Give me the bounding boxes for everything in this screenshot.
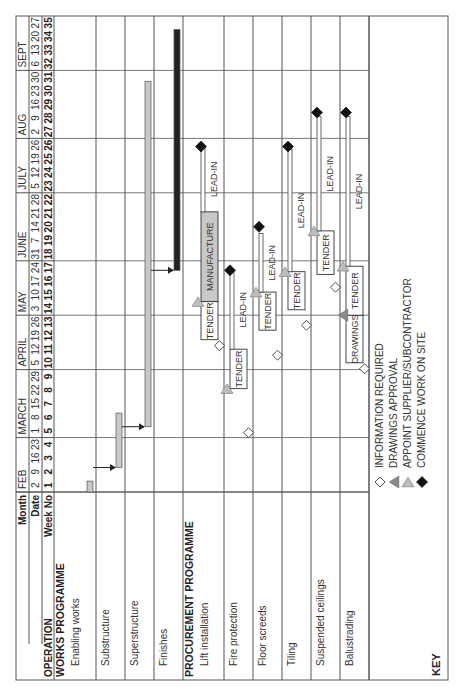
phase-label: LEAD-IN — [238, 292, 248, 328]
month-label-feb: FEB — [17, 469, 28, 489]
phase-label: TENDER — [234, 350, 244, 388]
month-label-march: MARCH — [17, 398, 28, 435]
lead-in-bar — [317, 117, 321, 231]
phase-label: TENDER — [205, 302, 215, 340]
week-tick: 6 — [43, 414, 54, 420]
row-label: Floor screeds — [257, 605, 268, 666]
date-tick: 17 — [30, 275, 41, 287]
section-title: PROCUREMENT PROGRAMME — [183, 521, 195, 677]
information-required-icon — [360, 364, 370, 374]
date-tick: 27 — [30, 17, 41, 29]
week-tick: 2 — [43, 468, 54, 474]
week-tick: 22 — [43, 194, 54, 206]
month-label-sept: SEPT — [17, 41, 28, 67]
date-tick: 15 — [30, 398, 41, 410]
week-tick: 32 — [43, 58, 54, 70]
month-label-july: JULY — [17, 166, 28, 190]
week-tick: 29 — [43, 98, 54, 110]
dependency-arrow-icon — [139, 423, 145, 430]
week-tick: 14 — [43, 302, 54, 314]
week-tick: 3 — [43, 455, 54, 461]
date-tick: 2 — [30, 482, 41, 488]
information-required-icon — [331, 282, 341, 292]
week-tick: 15 — [43, 289, 54, 301]
date-tick: 3 — [30, 305, 41, 311]
week-tick: 5 — [43, 428, 54, 434]
week-tick: 16 — [43, 275, 54, 287]
phase-label: LEAD-IN — [354, 174, 364, 210]
week-tick: 35 — [43, 17, 54, 29]
week-tick: 1 — [43, 482, 54, 488]
date-tick: 23 — [30, 85, 41, 97]
week-tick: 24 — [43, 166, 54, 178]
row-label: Suspended ceilings — [315, 579, 326, 666]
month-label-april: APRIL — [17, 337, 28, 366]
information-required-icon — [215, 341, 225, 351]
row-label: Superstructure — [129, 600, 140, 666]
week-tick: 19 — [43, 234, 54, 246]
week-tick: 20 — [43, 221, 54, 233]
date-tick: 9 — [30, 115, 41, 121]
row-label: Fire protection — [228, 602, 239, 666]
information-required-icon — [273, 350, 283, 360]
row-label: Finishes — [158, 629, 169, 666]
date-tick: 26 — [30, 316, 41, 328]
week-tick: 13 — [43, 316, 54, 328]
week-tick: 11 — [43, 343, 54, 354]
date-tick: 20 — [30, 30, 41, 42]
week-tick: 18 — [43, 248, 54, 260]
works-bar — [145, 81, 151, 426]
phase-label: DRAWINGS — [350, 314, 360, 363]
information-required-icon — [302, 320, 312, 330]
week-tick: 9 — [43, 373, 54, 379]
date-tick: 12 — [30, 166, 41, 178]
rows: WORKS PROGRAMMEEnabling worksSubstructur… — [54, 521, 355, 677]
date-tick: 1 — [30, 428, 41, 434]
phase-label: MANUFACTURE — [205, 222, 215, 291]
row-label: Balustrading — [344, 610, 355, 666]
key-information-required-icon — [375, 477, 385, 487]
date-tick: 2 — [30, 128, 41, 134]
date-tick: 16 — [30, 452, 41, 464]
key-appoint-supplier-icon — [402, 477, 414, 487]
week-tick: 30 — [43, 85, 54, 97]
phase-label: TENDER — [292, 272, 302, 310]
week-tick: 27 — [43, 126, 54, 138]
date-tick: 23 — [30, 438, 41, 450]
date-tick: 22 — [30, 384, 41, 396]
date-tick: 5 — [30, 360, 41, 366]
month-label-may: MAY — [17, 291, 28, 312]
date-tick: 9 — [30, 468, 41, 474]
date-tick: 19 — [30, 330, 41, 342]
works-bar — [116, 413, 122, 467]
date-tick: 29 — [30, 370, 41, 382]
week-tick: 17 — [43, 262, 54, 274]
date-tick: 24 — [30, 262, 41, 274]
date-label: Date — [30, 495, 41, 517]
information-required-icon — [244, 428, 254, 438]
week-tick: 21 — [43, 207, 54, 219]
phase-label: TENDER — [350, 272, 360, 310]
phase-label: TENDER — [321, 234, 331, 272]
phase-label: LEAD-IN — [325, 156, 335, 192]
date-tick: 14 — [30, 221, 41, 233]
month-label-june: JUNE — [17, 231, 28, 257]
week-tick: 25 — [43, 153, 54, 165]
lead-in-bar — [201, 147, 205, 212]
lead-in-bar — [346, 117, 350, 267]
gantt-svg: Month Date Week No OPERATION WORKS PROGR… — [0, 0, 464, 696]
date-tick: 26 — [30, 139, 41, 151]
commence-on-site-icon — [254, 221, 265, 232]
key-drawings-approval-icon — [389, 476, 399, 488]
date-tick: 12 — [30, 343, 41, 355]
phase-label: LEAD-IN — [209, 161, 219, 197]
date-tick: 16 — [30, 98, 41, 110]
gantt-chart: Month Date Week No OPERATION WORKS PROGR… — [0, 0, 464, 696]
lead-in-bar — [230, 270, 234, 349]
row-label: Substructure — [100, 609, 111, 666]
date-tick: 21 — [30, 207, 41, 219]
month-label: Month — [17, 495, 28, 525]
week-tick: 26 — [43, 139, 54, 151]
date-tick: 7 — [30, 237, 41, 243]
week-tick: 34 — [43, 30, 54, 42]
